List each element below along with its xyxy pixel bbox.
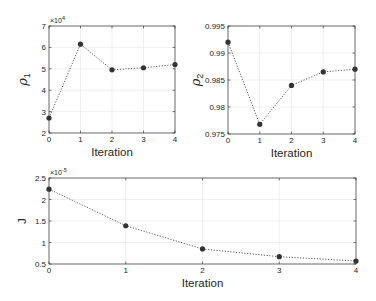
y-tick-label: 0.5 — [35, 260, 47, 269]
data-point — [46, 115, 51, 120]
data-point — [353, 258, 358, 263]
data-point — [172, 62, 177, 67]
x-tick-label: 2 — [200, 266, 205, 275]
y-axis-label: J — [16, 218, 28, 224]
subplot-J: 012340.511.522.5×10-5IterationJ — [16, 167, 359, 289]
data-point — [123, 223, 128, 228]
x-tick-label: 0 — [47, 135, 52, 144]
y-axis-label: ρ2 — [188, 74, 205, 88]
x-tick-label: 3 — [277, 266, 282, 275]
y-tick-label: 2.5 — [35, 174, 47, 183]
y-tick-label: 0.995 — [205, 22, 226, 31]
y-tick-label: 2 — [42, 196, 47, 205]
y-tick-label: 0.975 — [205, 130, 226, 139]
y-tick-label: 2 — [42, 129, 47, 138]
y-tick-label: 0.985 — [205, 76, 226, 85]
y-tick-label: 6 — [42, 43, 47, 52]
data-point — [46, 187, 51, 192]
x-tick-label: 4 — [173, 135, 178, 144]
x-tick-label: 1 — [124, 266, 129, 275]
y-tick-label: 1 — [42, 239, 47, 248]
x-tick-label: 3 — [321, 136, 326, 145]
y-tick-label: 3 — [42, 108, 47, 117]
x-tick-label: 2 — [289, 136, 294, 145]
data-point — [200, 246, 205, 251]
data-point — [289, 83, 294, 88]
y-axis-label: ρ1 — [15, 73, 32, 87]
x-axis-label: Iteration — [91, 146, 133, 158]
y-tick-label: 1.5 — [35, 217, 47, 226]
data-point — [141, 65, 146, 70]
data-point — [257, 122, 262, 127]
x-tick-label: 0 — [47, 266, 52, 275]
x-tick-label: 4 — [354, 266, 359, 275]
x-tick-label: 2 — [110, 135, 115, 144]
subplot-rho2: 012340.9750.980.9850.990.995Iterationρ2 — [188, 22, 358, 159]
data-point — [321, 69, 326, 74]
subplot-rho1: 01234234567×104Iterationρ1 — [15, 15, 178, 158]
y-tick-label: 7 — [42, 22, 47, 31]
x-tick-label: 4 — [353, 136, 358, 145]
figure: 01234234567×104Iterationρ1 012340.9750.9… — [0, 0, 376, 301]
x-tick-label: 3 — [141, 135, 146, 144]
y-tick-label: 0.98 — [209, 103, 225, 112]
x-tick-label: 1 — [258, 136, 263, 145]
data-point — [352, 67, 357, 72]
y-exponent-label: ×104 — [50, 15, 65, 24]
x-tick-label: 0 — [226, 136, 231, 145]
data-point — [109, 67, 114, 72]
y-exponent-label: ×10-5 — [50, 167, 67, 176]
data-point — [78, 42, 83, 47]
y-tick-label: 4 — [42, 86, 47, 95]
x-tick-label: 1 — [78, 135, 83, 144]
data-point — [277, 254, 282, 259]
data-point — [225, 40, 230, 45]
x-axis-label: Iteration — [271, 147, 313, 159]
y-tick-label: 5 — [42, 65, 47, 74]
y-tick-label: 0.99 — [209, 49, 225, 58]
x-axis-label: Iteration — [182, 277, 224, 289]
